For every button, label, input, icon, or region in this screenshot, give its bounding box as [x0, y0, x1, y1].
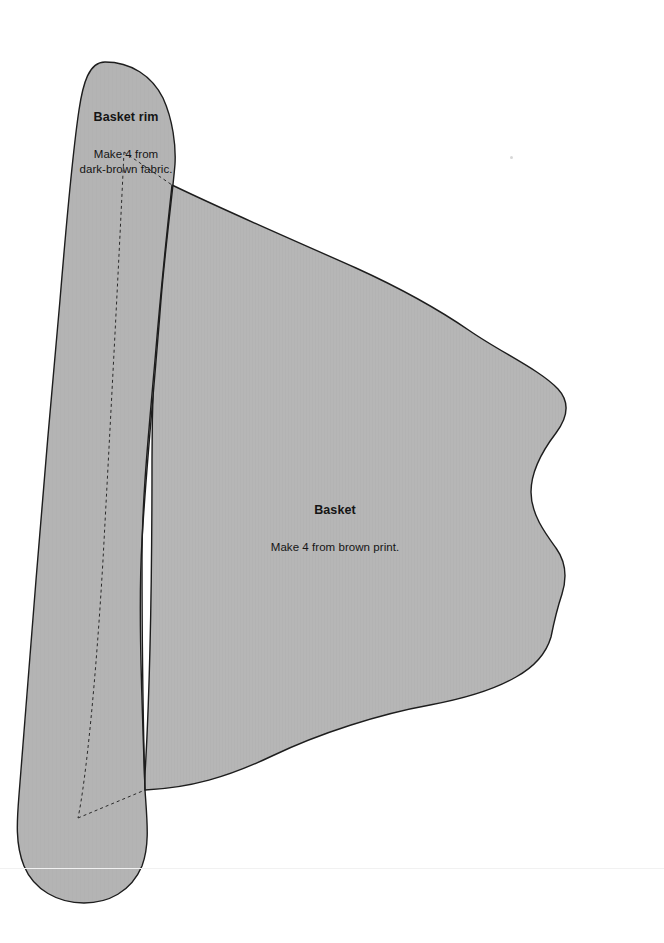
piece-basket-group	[144, 185, 566, 790]
basket-piece-shape	[144, 185, 566, 790]
scan-line-artifact	[0, 868, 664, 869]
pattern-artwork	[0, 0, 664, 943]
scan-speck-artifact	[510, 156, 513, 159]
pattern-sheet: Basket rim Make 4 from dark-brown fabric…	[0, 0, 664, 943]
